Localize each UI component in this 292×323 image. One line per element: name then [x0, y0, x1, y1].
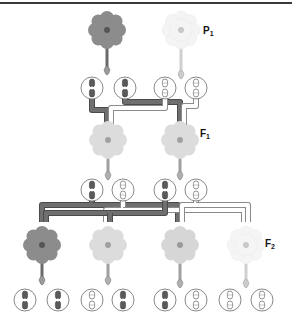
- genotype-circle-f2-8: [251, 289, 273, 311]
- genotype-circle-f1-4: [185, 179, 207, 201]
- flower-f1-pink-left: [89, 121, 127, 180]
- generation-p1: [81, 11, 207, 99]
- genotype-circle-f1-3: [154, 179, 176, 201]
- genotype-circle-f2-2: [47, 289, 69, 311]
- genetics-cross-diagram: [0, 0, 292, 323]
- genotype-circle-p1-4: [185, 77, 207, 99]
- generation-f2: [14, 226, 273, 311]
- label-f1-sub: 1: [206, 133, 210, 140]
- top-rule: [0, 2, 292, 4]
- flower-f2-pink-1: [89, 226, 127, 285]
- flower-f2-red: [23, 226, 61, 285]
- label-f2-sub: 2: [271, 243, 275, 250]
- flower-f2-white: [227, 226, 265, 288]
- genotype-circle-f2-3: [81, 289, 103, 311]
- genotype-circle-p1-1: [81, 77, 103, 99]
- flower-p1-red: [88, 11, 126, 75]
- label-p1-sub: 1: [210, 30, 214, 37]
- genotype-circle-f2-7: [219, 289, 241, 311]
- flower-f2-pink-2: [161, 226, 199, 288]
- genotype-circle-p1-3: [154, 77, 176, 99]
- label-f1: F1: [200, 128, 210, 140]
- inheritance-paths: [42, 99, 248, 222]
- flower-f1-pink-right: [161, 121, 199, 180]
- genotype-circle-p1-2: [114, 77, 136, 99]
- genotype-circle-f2-4: [112, 289, 134, 311]
- genotype-circle-f2-1: [14, 289, 36, 311]
- label-p1-main: P: [203, 25, 210, 36]
- label-f2: F2: [265, 238, 275, 250]
- genotype-circle-f1-1: [81, 179, 103, 201]
- label-p1: P1: [203, 25, 214, 37]
- flower-p1-white: [162, 11, 200, 79]
- genotype-circle-f1-2: [112, 179, 134, 201]
- genotype-circle-f2-5: [154, 289, 176, 311]
- generation-f1: [81, 121, 207, 201]
- genotype-circle-f2-6: [185, 289, 207, 311]
